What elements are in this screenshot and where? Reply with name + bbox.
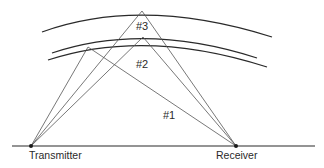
transmitter-label: Transmitter xyxy=(29,149,82,161)
transmitter-dot xyxy=(29,144,33,148)
middle-layer-lower-arc xyxy=(48,46,267,67)
path-label-2: #2 xyxy=(136,58,148,70)
outer-layer-arc xyxy=(42,15,272,37)
path-label-1: #1 xyxy=(163,109,175,121)
receiver-dot xyxy=(234,144,238,148)
propagation-diagram: #3 #2 #1 Transmitter Receiver xyxy=(0,0,324,168)
ray-path-1 xyxy=(31,47,236,146)
ray-path-2 xyxy=(31,37,236,146)
diagram-canvas xyxy=(0,0,324,168)
receiver-label: Receiver xyxy=(216,149,257,161)
path-label-3: #3 xyxy=(136,20,148,32)
